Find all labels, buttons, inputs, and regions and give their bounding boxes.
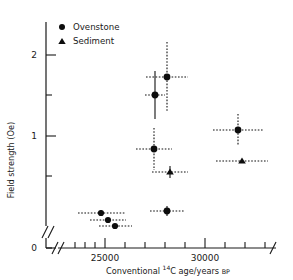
data-point	[78, 210, 125, 216]
legend: Ovenstone Sediment	[58, 22, 119, 46]
data-point	[99, 223, 132, 229]
figure-container: 2 1 0 25000 30000 Conventional 14C age/y…	[0, 0, 293, 280]
x-axis-title: Conventional 14C age/years BP	[106, 264, 230, 276]
data-point	[216, 158, 268, 164]
data-point	[146, 42, 188, 112]
x-axis-title-mid: C age/years	[170, 266, 221, 276]
marker-circle-icon	[151, 146, 158, 153]
x-tick-label-30000: 30000	[191, 253, 220, 263]
scatter-plot: 2 1 0 25000 30000 Conventional 14C age/y…	[0, 0, 293, 280]
marker-circle-icon	[164, 208, 171, 215]
y-tick-label-1: 1	[31, 131, 37, 141]
marker-circle-icon	[98, 210, 104, 216]
data-point	[152, 166, 188, 178]
x-tick-label-25000: 25000	[91, 253, 120, 263]
x-axis-title-post: BP	[222, 268, 230, 276]
data-point	[145, 71, 165, 119]
legend-marker-triangle-icon	[58, 38, 65, 44]
series-sediment	[152, 158, 268, 179]
marker-circle-icon	[235, 127, 242, 134]
marker-circle-icon	[152, 92, 159, 99]
data-point	[213, 114, 263, 146]
legend-marker-circle-icon	[59, 24, 65, 30]
x-axis-title-pre: Conventional	[106, 266, 163, 276]
y-axis-ticks	[46, 55, 56, 248]
data-point	[136, 128, 172, 170]
y-axis-title: Field strength (Oe)	[6, 122, 16, 198]
data-point	[150, 206, 184, 216]
marker-circle-icon	[164, 74, 171, 81]
data-point	[90, 217, 126, 223]
y-axis-break-icon	[42, 226, 54, 238]
series-ovenstone	[78, 42, 263, 229]
legend-label-sediment: Sediment	[73, 36, 115, 46]
marker-circle-icon	[112, 223, 118, 229]
x-axis-title-superscript: 14	[163, 264, 171, 271]
legend-label-ovenstone: Ovenstone	[73, 22, 119, 32]
y-tick-label-2: 2	[31, 50, 37, 60]
marker-circle-icon	[105, 217, 111, 223]
x-axis-ticks	[75, 238, 265, 248]
y-tick-label-0: 0	[31, 243, 37, 253]
